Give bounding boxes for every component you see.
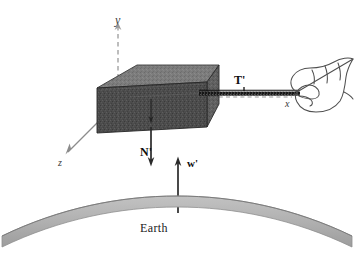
diagram-canvas xyxy=(0,0,354,263)
hand xyxy=(291,58,353,112)
force-label-weight: w' xyxy=(187,158,198,169)
force-label-tension: T' xyxy=(234,74,245,86)
earth-surface xyxy=(2,196,352,247)
axis-label-x: x xyxy=(285,99,289,109)
block-front-face xyxy=(97,82,207,133)
force-label-normal: N' xyxy=(140,146,152,158)
earth-label: Earth xyxy=(140,222,168,234)
axis-label-z: z xyxy=(58,158,62,168)
physics-figure: y z x T' N' w' Earth xyxy=(0,0,354,263)
block xyxy=(97,65,219,133)
axis-label-y: y xyxy=(115,14,120,26)
